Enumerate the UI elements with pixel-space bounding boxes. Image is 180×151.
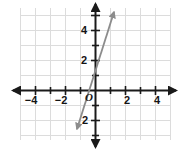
y-axis-label-neg2: 2 [82,114,88,126]
y-axis-label-pos4: 4 [81,24,88,36]
origin-label: O [85,91,93,103]
x-axis-label-neg4: −4 [25,94,38,106]
coordinate-plane-figure: −4 −2 2 4 4 2 2 O [0,0,180,151]
x-axis-label-pos2: 2 [124,94,130,106]
x-axis-label-neg2: −2 [55,94,68,106]
x-axis-label-pos4: 4 [154,94,161,106]
y-axis-label-pos2: 2 [81,54,87,66]
coordinate-plane-svg: −4 −2 2 4 4 2 2 O [0,0,180,151]
